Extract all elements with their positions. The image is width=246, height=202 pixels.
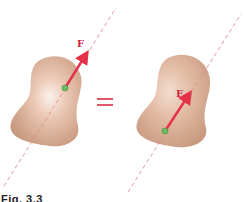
line-of-action-left [4, 8, 116, 186]
left-figure [4, 8, 116, 186]
force-label-right: F [176, 88, 183, 99]
force-label-left: F [77, 38, 84, 49]
rigid-body-right [137, 55, 211, 148]
figure-caption: Fig. 3.3 [1, 193, 43, 202]
equals-sign [97, 98, 113, 106]
diagram-canvas [0, 0, 246, 202]
right-figure [128, 14, 241, 192]
point-of-application-left [62, 85, 68, 91]
point-of-application-right [162, 128, 168, 134]
rigid-body-left [11, 56, 82, 146]
